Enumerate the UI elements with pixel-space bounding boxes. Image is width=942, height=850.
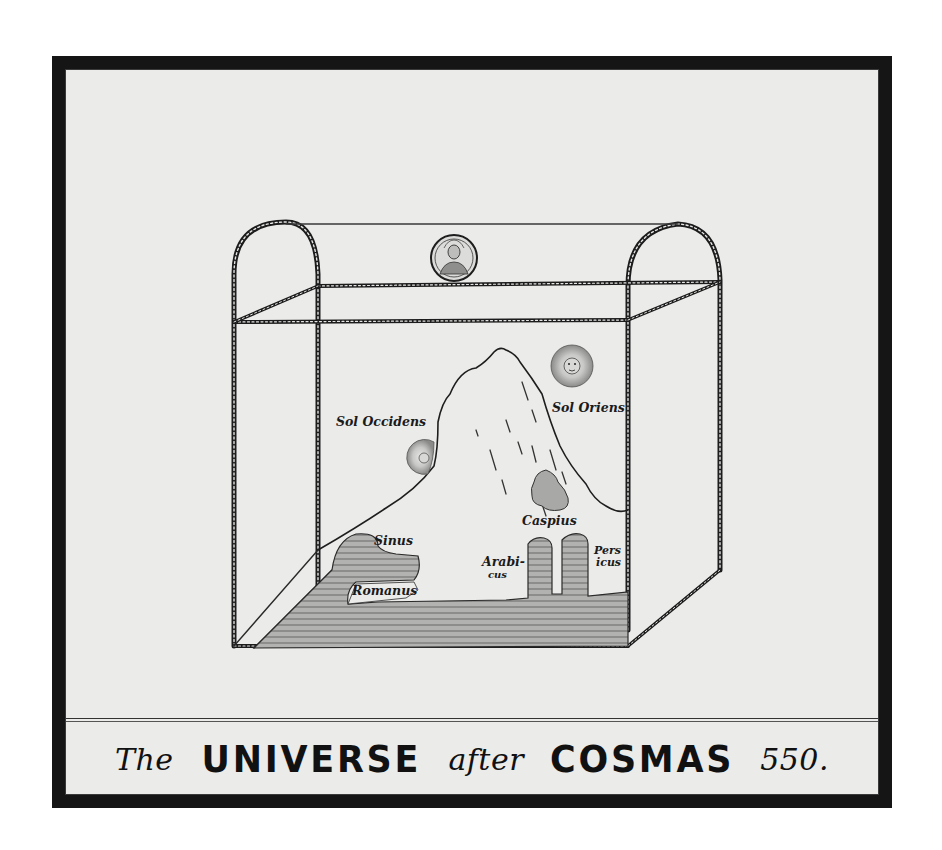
sun-rising-icon [551,345,593,387]
title-the: The [115,742,174,777]
plate-paper: Sol Occidens Sol Oriens Caspius Sinus Ro… [65,69,879,795]
label-romanus: Romanus [351,583,417,598]
label-persicus-2: icus [596,556,621,569]
cosmas-universe-illustration: Sol Occidens Sol Oriens Caspius Sinus Ro… [66,70,878,718]
label-arabicus-1: Arabi- [481,554,525,569]
creator-medallion-icon [431,235,477,281]
plate-title: The UNIVERSE after COSMAS 550. [66,724,878,794]
label-sol-oriens: Sol Oriens [552,400,625,415]
title-after: after [448,742,524,777]
label-sinus: Sinus [374,533,413,548]
title-cosmas: COSMAS [550,737,734,781]
sun-setting-icon [407,439,434,474]
sea-oceanus [254,534,628,648]
label-sol-occidens: Sol Occidens [336,414,426,429]
title-year: 550. [760,742,829,777]
label-caspius: Caspius [522,513,577,528]
caption-divider [66,718,878,722]
label-arabicus-2: cus [488,569,507,580]
plate-frame: Sol Occidens Sol Oriens Caspius Sinus Ro… [52,56,892,808]
title-universe: UNIVERSE [201,737,421,781]
